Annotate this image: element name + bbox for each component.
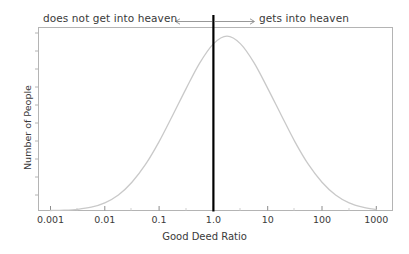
chart-figure: does not get into heaven gets into heave…	[0, 0, 409, 254]
right-arrow-icon	[215, 19, 255, 24]
annotation-does-not-get-into-heaven: does not get into heaven	[43, 12, 177, 24]
x-tick-label-4: 10	[262, 214, 274, 225]
y-axis-title: Number of People	[22, 85, 33, 170]
x-tick-label-3: 1.0	[206, 214, 221, 225]
annotation-gets-into-heaven: gets into heaven	[259, 12, 349, 24]
x-axis-title: Good Deed Ratio	[0, 231, 409, 242]
x-tick-label-1: 0.01	[94, 214, 115, 225]
y-axis-ticks	[35, 33, 39, 195]
x-tick-label-5: 100	[313, 214, 331, 225]
x-tick-label-2: 0.1	[152, 214, 167, 225]
left-arrow-icon	[176, 19, 213, 24]
x-tick-label-6: 1000	[364, 214, 388, 225]
x-tick-label-0: 0.001	[37, 214, 64, 225]
plot-frame	[39, 28, 393, 211]
